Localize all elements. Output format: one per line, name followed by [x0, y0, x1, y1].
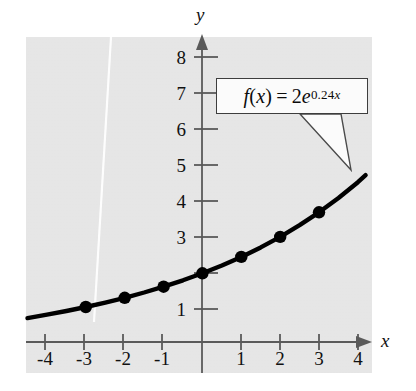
graph-layer [0, 0, 416, 391]
x-tick-label--2: -2 [107, 348, 139, 370]
y-tick-label-3: 3 [160, 227, 186, 249]
data-point [119, 292, 131, 304]
x-tick-label--4: -4 [29, 348, 61, 370]
function-curve [28, 175, 366, 318]
x-tick-label-3: 3 [303, 348, 335, 370]
y-tick-label-1: 1 [160, 299, 186, 321]
data-point [196, 267, 208, 279]
data-point [235, 251, 247, 263]
x-tick-label-2: 2 [264, 348, 296, 370]
y-tick-label-8: 8 [160, 47, 186, 69]
y-tick-label-7: 7 [160, 83, 186, 105]
data-point [157, 281, 169, 293]
callout-tail [300, 114, 351, 170]
y-tick-label-6: 6 [160, 119, 186, 141]
x-axis-name: x [381, 330, 389, 352]
data-point [274, 231, 286, 243]
y-axis-name: y [196, 4, 204, 26]
figure-container: f(x)=2e0.24x -4 -3 -2 -1 1 2 3 4 1 3 4 5… [0, 0, 416, 391]
y-axis [196, 34, 208, 373]
x-axis [26, 336, 372, 348]
x-tick-label--1: -1 [146, 348, 178, 370]
y-tick-label-5: 5 [160, 155, 186, 177]
y-tick-label-4: 4 [160, 191, 186, 213]
equation-callout-box [216, 78, 368, 114]
x-tick-label--3: -3 [68, 348, 100, 370]
x-tick-label-1: 1 [225, 348, 257, 370]
x-tick-label-4: 4 [342, 348, 374, 370]
data-point [80, 301, 92, 313]
data-point [313, 206, 325, 218]
